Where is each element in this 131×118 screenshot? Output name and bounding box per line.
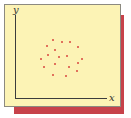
data-point <box>46 45 48 47</box>
data-point <box>65 75 67 77</box>
data-point <box>47 54 49 56</box>
data-point <box>54 49 56 51</box>
x-axis <box>15 98 107 99</box>
data-point <box>76 70 78 72</box>
data-point <box>58 56 60 58</box>
data-point <box>52 74 54 76</box>
y-axis-label: y <box>13 5 19 15</box>
data-point <box>52 39 54 41</box>
data-point <box>54 63 56 65</box>
y-axis <box>15 15 16 98</box>
x-axis-label: x <box>109 93 115 103</box>
data-point <box>40 58 42 60</box>
data-point <box>77 62 79 64</box>
plot-card <box>4 4 121 107</box>
data-point <box>66 55 68 57</box>
